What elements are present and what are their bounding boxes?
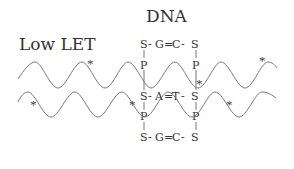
- damage-star-icon: *: [259, 53, 266, 68]
- bond: -: [148, 38, 152, 51]
- sugar-s: S: [191, 90, 199, 103]
- damage-star-icon: *: [196, 76, 203, 91]
- base-g: G: [155, 38, 164, 51]
- bond: -: [181, 131, 185, 144]
- phosphate-p: P: [140, 59, 148, 72]
- base-c: C: [172, 131, 180, 144]
- base-pair-bottom: S - G = C - S: [140, 131, 199, 144]
- sugar-s: S: [140, 131, 148, 144]
- low-let-dna-diagram: Low LET DNA S - G = C - S P P S - A = T …: [0, 0, 294, 169]
- base-g: G: [155, 131, 164, 144]
- damage-star-icon: *: [226, 97, 233, 112]
- sugar-s: S: [191, 131, 199, 144]
- base-c: C: [172, 38, 180, 51]
- bond: -: [148, 90, 152, 103]
- damage-star-icon: *: [30, 97, 37, 112]
- bond: -: [181, 90, 185, 103]
- base-pair-top: S - G = C - S: [140, 38, 199, 51]
- bond: -: [181, 38, 185, 51]
- dna-label: DNA: [146, 6, 188, 26]
- damage-star-icon: *: [87, 56, 94, 71]
- sugar-s: S: [140, 90, 148, 103]
- bond: -: [148, 131, 152, 144]
- base-t: T: [172, 90, 180, 103]
- low-let-label: Low LET: [19, 34, 96, 54]
- sugar-s: S: [191, 38, 199, 51]
- phosphate-p: P: [192, 59, 200, 72]
- radiation-wave-upper: [18, 62, 277, 88]
- damage-star-icon: *: [129, 97, 136, 112]
- sugar-s: S: [140, 38, 148, 51]
